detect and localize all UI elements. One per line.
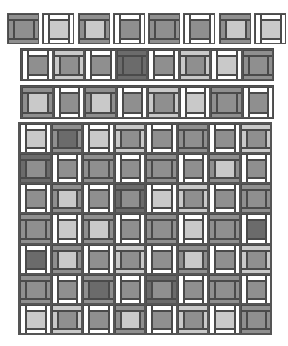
quilt-block-striped (19, 183, 51, 213)
bottom-bar (243, 75, 274, 80)
center-square (26, 160, 46, 178)
bottom-bar (180, 75, 211, 80)
center-square (152, 130, 172, 148)
quilt-block-striped (145, 183, 177, 213)
quilt-block-framed (210, 86, 242, 118)
center-square (89, 160, 109, 178)
right-strip (140, 14, 145, 44)
center-square (28, 93, 48, 113)
bottom-bar (178, 329, 209, 334)
center-square (49, 20, 69, 39)
quilt-grid (18, 122, 272, 335)
quilt-block-framed (177, 183, 209, 213)
center-square (186, 93, 206, 113)
center-square (89, 281, 109, 299)
center-square (184, 281, 204, 299)
quilt-block-framed (53, 49, 85, 80)
right-strip (210, 14, 215, 44)
center-square (184, 190, 204, 208)
center-square (26, 220, 46, 238)
quilt-block-striped (208, 244, 240, 274)
center-square (26, 281, 46, 299)
center-square (58, 220, 78, 238)
center-square (152, 160, 172, 178)
center-square (26, 251, 46, 269)
center-square (261, 20, 281, 39)
quilt-block-framed (145, 153, 177, 183)
quilt-block-striped (145, 123, 177, 153)
right-strip (266, 154, 271, 183)
quilt-block-striped (183, 13, 215, 44)
center-square (91, 56, 111, 75)
quilt-block-striped (145, 244, 177, 274)
center-square (89, 220, 109, 238)
bottom-strip (217, 75, 237, 80)
quilt-block-framed (114, 183, 146, 213)
quilt-block-striped (82, 123, 114, 153)
bottom-strip (215, 329, 235, 334)
quilt-block-framed (240, 123, 272, 153)
quilt-block-striped (51, 274, 83, 304)
quilt-block-framed (51, 304, 83, 334)
quilt-block-framed (51, 123, 83, 153)
center-square (121, 251, 141, 269)
quilt-block-striped (19, 304, 51, 334)
bottom-bar (52, 329, 83, 334)
center-square (186, 56, 206, 75)
quilt-block-striped (147, 49, 179, 80)
center-square (247, 130, 267, 148)
quilt-block-framed (240, 304, 272, 334)
center-square (184, 311, 204, 329)
quilt-block-framed (114, 123, 146, 153)
quilt-block-striped (254, 13, 286, 44)
center-square (58, 130, 78, 148)
center-square (123, 93, 143, 113)
bottom-bar (148, 113, 179, 118)
center-square (89, 251, 109, 269)
center-square (60, 56, 80, 75)
center-square (89, 311, 109, 329)
center-square (215, 130, 235, 148)
quilt-block-striped (114, 274, 146, 304)
right-strip (69, 14, 74, 44)
quilt-block-framed (51, 244, 83, 274)
quilt-block-framed (208, 213, 240, 243)
center-square (247, 220, 267, 238)
center-square (152, 251, 172, 269)
quilt-block-striped (51, 153, 83, 183)
quilt-block-framed (177, 304, 209, 334)
center-square (26, 190, 46, 208)
quilt-block-striped (114, 213, 146, 243)
center-square (184, 251, 204, 269)
quilt-block-framed (82, 274, 114, 304)
center-square (155, 20, 175, 39)
quilt-block-striped (113, 13, 145, 44)
right-strip (268, 87, 273, 118)
quilt-block-framed (82, 153, 114, 183)
quilt-block-framed (145, 274, 177, 304)
center-square (247, 281, 267, 299)
right-strip (266, 214, 271, 243)
quilt-block-framed (208, 274, 240, 304)
center-square (215, 251, 235, 269)
quilt-block-striped (53, 86, 85, 118)
quilt-block-framed (240, 183, 272, 213)
bottom-strip (249, 113, 269, 118)
strip-1 (7, 13, 286, 44)
center-square (121, 281, 141, 299)
quilt-block-framed (7, 13, 39, 44)
quilt-block-framed (19, 213, 51, 243)
center-square (249, 56, 269, 75)
bottom-strip (28, 75, 48, 80)
center-square (154, 93, 174, 113)
right-bar (266, 251, 271, 269)
quilt-block-framed (19, 153, 51, 183)
quilt-block-framed (114, 304, 146, 334)
right-strip (266, 275, 271, 304)
bottom-bar (220, 39, 251, 44)
quilt-block-striped (208, 183, 240, 213)
quilt-block-striped (19, 123, 51, 153)
quilt-block-striped (242, 86, 274, 118)
bottom-bar (211, 113, 242, 118)
quilt-block-framed (145, 213, 177, 243)
